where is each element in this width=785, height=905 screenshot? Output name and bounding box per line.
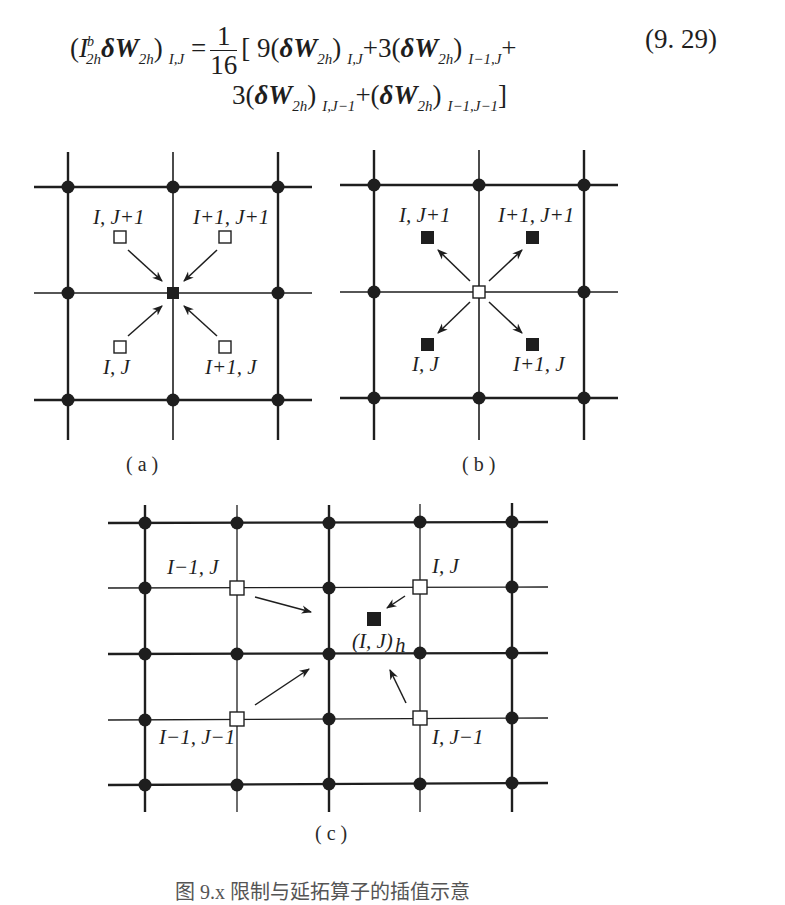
- source-square: [473, 286, 485, 298]
- target-square: [367, 612, 381, 626]
- panel-a: [34, 152, 312, 440]
- caption-c: ( c ): [315, 822, 347, 845]
- label-iplus1-jplus1: I+1, J+1: [497, 203, 574, 227]
- label-i-j: I, J: [431, 554, 460, 578]
- label-iminus1-jminus1: I−1, J−1: [158, 725, 235, 749]
- panel-c-labels: I−1, J I, J (I, J) h I−1, J−1 I, J−1 ( c…: [158, 554, 484, 845]
- panel-c: [108, 503, 548, 812]
- label-i-jplus1: I, J+1: [398, 203, 451, 227]
- panel-b: [340, 150, 618, 440]
- label-iplus1-j: I+1, J: [512, 352, 566, 376]
- label-iplus1-j: I+1, J: [204, 355, 258, 379]
- figure-caption-clipped: 图 9.x 限制与延拓算子的插值示意: [175, 876, 470, 905]
- label-fine-subscript-h: h: [395, 633, 406, 657]
- label-iminus1-j: I−1, J: [166, 555, 220, 579]
- label-i-j: I, J: [102, 355, 131, 379]
- label-iplus1-jplus1: I+1, J+1: [192, 205, 269, 229]
- caption-a: ( a ): [126, 453, 158, 476]
- label-i-j: I, J: [411, 352, 440, 376]
- label-fine-i-j: (I, J): [352, 629, 393, 653]
- target-square: [167, 287, 179, 299]
- caption-b: ( b ): [462, 453, 495, 476]
- label-i-jplus1: I, J+1: [92, 205, 145, 229]
- label-i-jminus1: I, J−1: [431, 725, 484, 749]
